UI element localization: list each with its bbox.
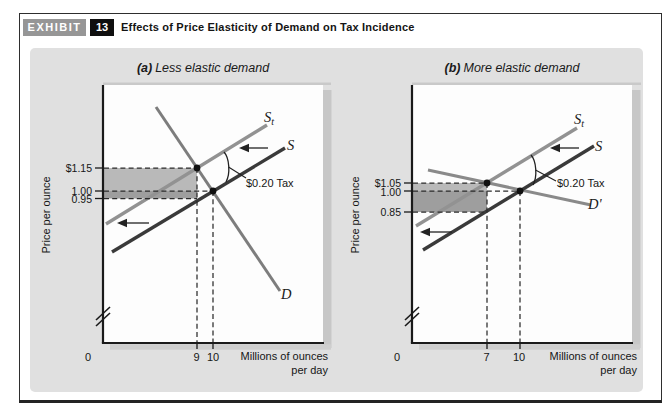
panel-a-title-text: Less elastic demand	[155, 61, 269, 75]
plot-b-top-shadow	[412, 83, 641, 86]
panel-b-x-axis-label-line2: per day	[530, 364, 637, 378]
panel-a-ytick-1-15: $1.15	[52, 162, 92, 174]
panel-a-ytick-0-95: 0.95	[52, 193, 92, 205]
panel-b-xtick-7: 7	[480, 351, 493, 363]
plot-b-area	[412, 85, 632, 343]
panel-a-origin-label: 0	[82, 351, 94, 363]
panel-b-demand-label: D'	[588, 196, 602, 213]
exhibit-figure: EXHIBIT 13 Effects of Price Elasticity o…	[0, 0, 669, 406]
plot-a-bottom-shadow	[110, 344, 331, 350]
pre-tax-equilibrium-point-a	[210, 188, 217, 195]
panel-b-supply-label: S	[595, 138, 602, 155]
panel-a-y-axis-label: Price per ounce	[40, 159, 52, 271]
panel-b-y-axis-label: Price per ounce	[349, 159, 361, 271]
panel-a-title: (a)Less elastic demand	[93, 61, 313, 75]
plot-b	[404, 83, 641, 350]
panel-a-x-axis-label-line2: per day	[221, 364, 328, 378]
panel-a-x-axis-label: Millions of ounces per day	[221, 350, 328, 377]
panel-b-tax-label: $0.20 Tax	[557, 177, 605, 189]
panel-a-supply-after-tax-label: St	[264, 109, 274, 127]
panel-b-st-sub: t	[581, 118, 584, 129]
panel-b-title-prefix: (b)	[445, 61, 461, 75]
plot-a	[95, 83, 332, 350]
panel-a-title-prefix: (a)	[137, 61, 152, 75]
panel-b-supply-after-tax-label: St	[574, 111, 584, 129]
panel-a-supply-label: S	[287, 137, 294, 154]
post-tax-equilibrium-point-a	[194, 165, 201, 172]
panel-b-xtick-10: 10	[511, 351, 527, 363]
plot-a-right-shadow	[323, 90, 332, 348]
panel-b-x-axis-label: Millions of ounces per day	[530, 350, 637, 377]
panel-b-x-axis-label-line1: Millions of ounces	[530, 350, 637, 364]
panel-a-x-axis-label-line1: Millions of ounces	[221, 350, 328, 364]
panel-b-origin-label: 0	[391, 351, 403, 363]
plot-b-bottom-shadow	[419, 344, 640, 350]
panel-a-tax-label: $0.20 Tax	[246, 177, 294, 189]
panel-b-ytick-1-00: 1.00	[361, 186, 401, 198]
consumer-burden-shade-a	[104, 168, 197, 191]
panel-a-demand-label: D	[281, 286, 291, 303]
panel-a-xtick-10: 10	[205, 351, 221, 363]
plot-a-area	[103, 85, 323, 343]
panel-b-title: (b)More elastic demand	[402, 61, 622, 75]
panel-a-st-sub: t	[271, 116, 274, 127]
panel-b-ytick-0-85: 0.85	[361, 206, 401, 218]
panel-a-xtick-9: 9	[190, 351, 203, 363]
post-tax-equilibrium-point-b	[484, 180, 491, 187]
panel-b-title-text: More elastic demand	[463, 61, 579, 75]
plot-a-top-shadow	[103, 83, 331, 86]
plot-b-right-shadow	[632, 90, 641, 348]
producer-burden-shade-b	[413, 191, 487, 212]
pre-tax-equilibrium-point-b	[517, 188, 524, 195]
